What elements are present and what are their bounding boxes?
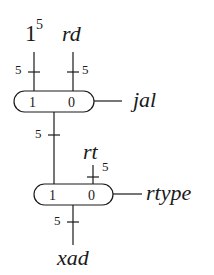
mux-rtype xyxy=(34,184,113,205)
bus-width-label: 5 xyxy=(82,62,89,77)
select-label-rtype: rtype xyxy=(146,180,191,205)
bus-width-label: 5 xyxy=(102,159,109,174)
bus-width-label: 5 xyxy=(35,126,42,141)
mux-jal-input-1: 1 xyxy=(29,95,36,110)
mux-diagram: 1 5 rd 5 5 1 0 jal 5 rt 5 1 0 rtype 5 xa… xyxy=(0,0,214,275)
output-xad-label: xad xyxy=(56,245,90,270)
mux-rtype-input-1: 1 xyxy=(49,188,56,203)
bus-width-label: 5 xyxy=(15,62,22,77)
bus-width-label: 5 xyxy=(54,213,61,228)
const-ones-base: 1 xyxy=(25,21,37,46)
mux-jal xyxy=(14,91,94,112)
mux-rtype-input-0: 0 xyxy=(88,188,95,203)
input-rd-label: rd xyxy=(62,21,82,46)
const-ones-exponent: 5 xyxy=(36,17,43,32)
mux-jal-input-0: 0 xyxy=(68,95,75,110)
select-label-jal: jal xyxy=(130,87,156,112)
input-const-ones: 1 5 xyxy=(25,17,43,46)
input-rt-label: rt xyxy=(83,139,99,164)
